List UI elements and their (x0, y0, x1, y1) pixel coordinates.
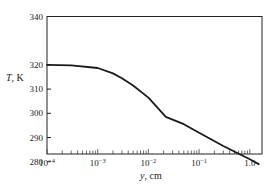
plot-frame (47, 17, 262, 155)
x-tick-label: 10−1 (191, 157, 207, 168)
y-tick-label: 290 (30, 133, 44, 143)
data-line (47, 65, 259, 164)
y-tick-label: 310 (30, 84, 44, 94)
x-tick-label: 10−4 (39, 157, 56, 168)
y-axis-label: T, K (6, 72, 25, 83)
x-tick-label: 10−2 (140, 157, 156, 168)
temperature-profile-chart: 280290300310320340 10−410−310−210−11.0 T… (0, 0, 276, 185)
x-axis-label: y, cm (139, 170, 162, 181)
y-axis-ticks: 280290300310320340 (30, 12, 52, 167)
y-tick-label: 320 (30, 60, 44, 70)
y-tick-label: 340 (30, 12, 44, 22)
y-tick-label: 300 (30, 108, 44, 118)
x-axis-ticks: 10−410−310−210−11.0 (39, 149, 256, 168)
x-tick-label: 10−3 (90, 157, 106, 168)
